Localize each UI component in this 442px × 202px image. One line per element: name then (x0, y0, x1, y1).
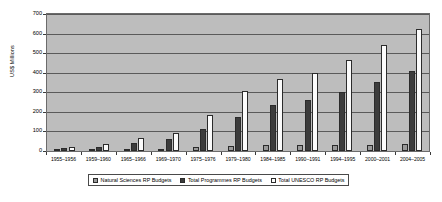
bar-group (325, 14, 360, 151)
bar (124, 149, 130, 151)
bar (409, 71, 415, 151)
legend-label: Total Programmes RP Budgets (188, 177, 262, 183)
bar (89, 149, 95, 151)
y-axis-title: US$ Millions (9, 31, 15, 91)
x-axis-tick-mark (255, 152, 256, 155)
x-axis-tick-mark (430, 152, 431, 155)
bar (166, 139, 172, 151)
legend-item: Natural Sciences RP Budgets (93, 177, 171, 183)
x-axis-tick-mark (290, 152, 291, 155)
bar (312, 73, 318, 151)
bar-group (360, 14, 395, 151)
bar (103, 144, 109, 151)
x-axis-tick-marks (46, 152, 430, 155)
legend-label: Total UNESCO RP Budgets (278, 177, 344, 183)
bar (207, 115, 213, 151)
bar (235, 117, 241, 151)
x-axis-tick-label: 1990–1991 (290, 156, 325, 162)
bar (277, 79, 283, 151)
bar-groups (47, 14, 429, 151)
bar-group (151, 14, 186, 151)
bar (138, 138, 144, 151)
legend-item: Total UNESCO RP Budgets (271, 177, 345, 183)
legend-item: Total Programmes RP Budgets (180, 177, 261, 183)
bar-group (82, 14, 117, 151)
x-axis-tick-mark (151, 152, 152, 155)
x-axis-tick-mark (116, 152, 117, 155)
bar-group (255, 14, 290, 151)
y-axis-tick-label: 0 (0, 148, 42, 154)
bar (54, 149, 60, 151)
bar (173, 133, 179, 151)
x-axis-tick-label: 1984–1985 (255, 156, 290, 162)
y-axis-tick-label: 400 (0, 70, 42, 76)
bar (61, 148, 67, 151)
bar (339, 92, 345, 151)
x-axis-tick-mark (360, 152, 361, 155)
bar (416, 29, 422, 151)
bar (305, 100, 311, 151)
bar (242, 91, 248, 151)
x-axis-tick-label: 1965–1966 (116, 156, 151, 162)
bar (332, 145, 338, 151)
x-axis-tick-label: 2000–2001 (360, 156, 395, 162)
bar (96, 147, 102, 152)
bar-group (394, 14, 429, 151)
x-axis-tick-label: 1959–1960 (81, 156, 116, 162)
x-axis-tick-mark (221, 152, 222, 155)
bar (381, 45, 387, 151)
x-axis-tick-mark (46, 152, 47, 155)
x-axis-tick-mark (325, 152, 326, 155)
bar (131, 143, 137, 151)
bar (193, 147, 199, 151)
x-axis-tick-mark (81, 152, 82, 155)
y-axis-tick-label: 100 (0, 128, 42, 134)
bar (297, 145, 303, 151)
bar (158, 149, 164, 151)
y-axis-tick-label: 700 (0, 11, 42, 17)
legend-swatch (180, 178, 185, 183)
x-axis-tick-label: 1975–1976 (186, 156, 221, 162)
chart-container: US$ Millions 0100200300400500600700 1955… (0, 0, 442, 202)
legend-label: Natural Sciences RP Budgets (101, 177, 172, 183)
bar-group (47, 14, 82, 151)
x-axis-tick-label: 1969–1970 (151, 156, 186, 162)
bar (402, 144, 408, 151)
y-axis-tick-label: 200 (0, 109, 42, 115)
chart-legend: Natural Sciences RP BudgetsTotal Program… (88, 174, 349, 186)
bar (374, 82, 380, 151)
bar (263, 145, 269, 151)
bar-group (221, 14, 256, 151)
x-axis-tick-mark (186, 152, 187, 155)
legend-swatch (271, 178, 276, 183)
bar (270, 105, 276, 151)
x-axis-tick-label: 2004–2005 (395, 156, 430, 162)
bar (367, 145, 373, 151)
y-axis-tick-label: 300 (0, 89, 42, 95)
x-axis-tick-label: 1994–1995 (325, 156, 360, 162)
x-axis-tick-label: 1979–1980 (221, 156, 256, 162)
y-axis-tick-label: 600 (0, 31, 42, 37)
y-axis-tick-label: 500 (0, 50, 42, 56)
legend-swatch (93, 178, 98, 183)
x-axis-tick-label: 1955–1956 (46, 156, 81, 162)
bar (200, 129, 206, 151)
bar-group (116, 14, 151, 151)
x-axis-tick-mark (395, 152, 396, 155)
bar (69, 147, 75, 152)
bar (346, 60, 352, 151)
bar-group (186, 14, 221, 151)
bar (228, 146, 234, 151)
x-axis-tick-labels: 1955–19561959–19601965–19661969–19701975… (46, 156, 430, 162)
bar-group (290, 14, 325, 151)
